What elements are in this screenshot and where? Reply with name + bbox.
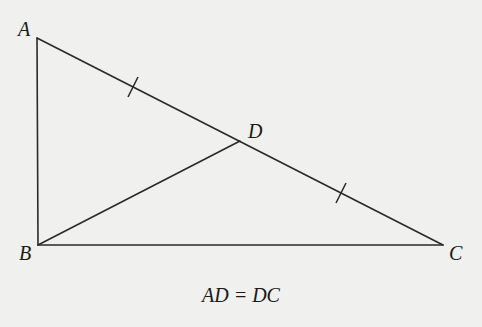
- label-b: B: [19, 242, 31, 264]
- triangle-diagram: A B C D AD = DC: [0, 0, 482, 327]
- label-a: A: [16, 18, 31, 40]
- label-c: C: [449, 242, 463, 264]
- segment-bd: [38, 141, 240, 245]
- label-d: D: [247, 120, 263, 142]
- caption: AD = DC: [200, 284, 281, 306]
- tick-mark-ad: [128, 77, 138, 97]
- segment-ab: [37, 38, 38, 245]
- tick-mark-dc: [336, 183, 346, 203]
